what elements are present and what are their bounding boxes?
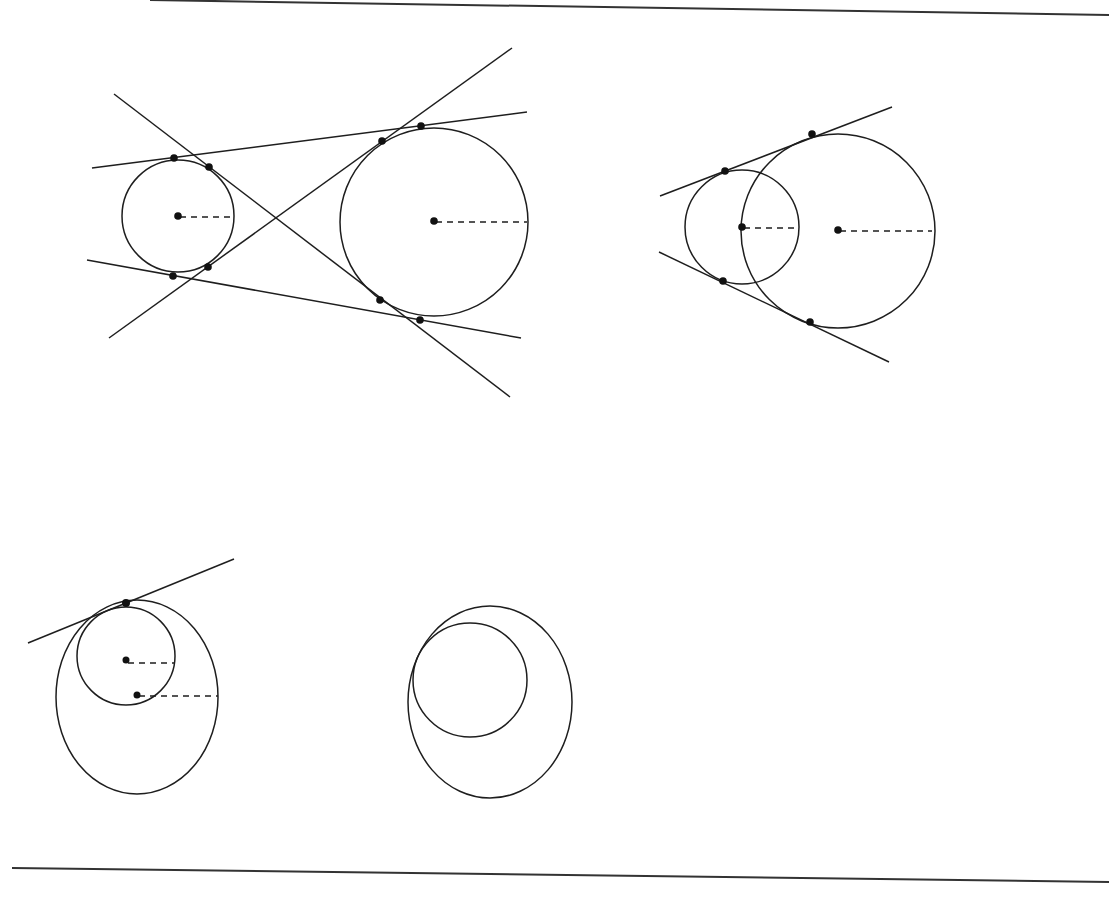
- top-rule: [150, 0, 1109, 15]
- point-c0: [134, 692, 141, 699]
- circle-c1: [77, 607, 175, 705]
- point-c0: [430, 217, 438, 225]
- line-l0: [92, 112, 527, 168]
- point-q0: [416, 316, 424, 324]
- point-p1: [719, 277, 727, 285]
- panel-zero-tangents: [408, 606, 572, 798]
- line-l0: [28, 559, 234, 643]
- point-c0: [834, 226, 842, 234]
- point-c1: [174, 212, 182, 220]
- point-p0: [721, 167, 729, 175]
- point-q1: [417, 122, 425, 130]
- line-l3: [109, 48, 512, 338]
- point-q1: [806, 318, 814, 326]
- panel-four-tangents: [0, 0, 528, 397]
- circle-c0: [408, 606, 572, 798]
- point-q0: [808, 130, 816, 138]
- point-c1: [123, 657, 130, 664]
- point-q2: [376, 296, 384, 304]
- point-c1: [738, 223, 746, 231]
- bottom-rule: [12, 868, 1109, 882]
- panel-two-tangents: [0, 0, 935, 362]
- tangent-lines-figure: [0, 0, 1109, 899]
- point-p0: [170, 154, 178, 162]
- point-p: [122, 599, 130, 607]
- panel-one-tangent: [0, 0, 234, 794]
- line-l0: [660, 107, 892, 196]
- point-q3: [378, 137, 386, 145]
- point-p1: [169, 272, 177, 280]
- point-p3: [204, 263, 212, 271]
- circle-c1: [413, 623, 527, 737]
- line-l1: [87, 260, 521, 338]
- point-p2: [205, 163, 213, 171]
- line-l1: [659, 252, 889, 362]
